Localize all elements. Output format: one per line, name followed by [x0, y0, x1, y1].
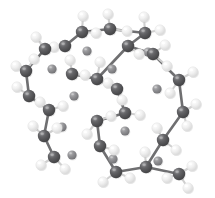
atom-sphere — [188, 67, 198, 77]
atom-sphere — [38, 130, 50, 142]
atom-sphere — [191, 99, 201, 109]
atom-specular-highlight — [93, 117, 97, 120]
atom-specular-highlight — [45, 106, 49, 109]
atom-sphere — [29, 54, 39, 64]
atom-specular-highlight — [142, 149, 145, 151]
atom-sphere — [117, 95, 127, 105]
atom-sphere — [23, 90, 35, 102]
atom-sphere — [43, 104, 55, 116]
atom-specular-highlight — [109, 66, 112, 68]
atom-sphere — [153, 156, 162, 165]
atom-specular-highlight — [69, 152, 72, 154]
atom-sphere — [177, 106, 189, 118]
atom-sphere — [125, 173, 135, 183]
atom-sphere — [20, 65, 32, 77]
atom-sphere — [110, 166, 122, 178]
atom-sphere — [59, 40, 71, 52]
atom-sphere — [11, 61, 21, 71]
atom-specular-highlight — [40, 132, 44, 135]
atom-sphere — [122, 40, 134, 52]
atom-sphere — [152, 84, 161, 93]
atom-specular-highlight — [164, 175, 167, 177]
atom-specular-highlight — [13, 63, 16, 65]
atom-sphere — [31, 32, 41, 42]
atom-sphere — [139, 27, 151, 39]
atom-specular-highlight — [25, 92, 29, 95]
atom-sphere — [187, 161, 197, 171]
atom-sphere — [140, 161, 152, 173]
atom-specular-highlight — [84, 48, 87, 50]
atom-specular-highlight — [67, 57, 70, 59]
atom-specular-highlight — [175, 76, 179, 79]
atom-sphere — [104, 23, 116, 35]
atom-sphere — [122, 26, 132, 36]
atom-sphere — [60, 164, 70, 174]
atom-sphere — [36, 160, 46, 170]
atom-specular-highlight — [154, 125, 157, 127]
atom-sphere — [91, 115, 103, 127]
atom-specular-highlight — [60, 103, 63, 105]
atom-specular-highlight — [106, 25, 110, 28]
atom-specular-highlight — [78, 28, 82, 31]
atom-sphere — [52, 123, 62, 133]
atom-specular-highlight — [108, 113, 111, 115]
atom-specular-highlight — [175, 170, 179, 173]
atom-sphere — [39, 43, 51, 55]
atom-specular-highlight — [162, 42, 165, 44]
atom-specular-highlight — [93, 30, 96, 32]
atom-specular-highlight — [22, 67, 26, 70]
atom-specular-highlight — [112, 168, 116, 171]
atom-specular-highlight — [31, 56, 34, 58]
atom-sphere — [106, 111, 116, 121]
atom-specular-highlight — [173, 147, 176, 149]
atom-sphere — [69, 91, 78, 100]
atom-sphere — [107, 64, 116, 73]
atom-specular-highlight — [82, 72, 85, 74]
atom-sphere — [155, 25, 165, 35]
atom-specular-highlight — [61, 42, 65, 45]
atom-sphere — [157, 134, 169, 146]
atom-sphere — [160, 40, 170, 50]
atom-specular-highlight — [113, 85, 117, 88]
atom-sphere — [162, 61, 172, 71]
atom-specular-highlight — [51, 44, 54, 46]
atom-specular-highlight — [184, 123, 187, 125]
atom-sphere — [91, 73, 103, 85]
atom-specular-highlight — [193, 101, 196, 103]
atom-specular-highlight — [71, 93, 74, 95]
atom-specular-highlight — [185, 185, 188, 187]
atom-specular-highlight — [54, 125, 57, 127]
atom-sphere — [76, 26, 88, 38]
atom-sphere — [152, 123, 162, 133]
atom-specular-highlight — [93, 75, 97, 78]
atom-specular-highlight — [167, 90, 170, 92]
atom-specular-highlight — [137, 112, 140, 114]
atom-specular-highlight — [119, 97, 122, 99]
atom-specular-highlight — [189, 163, 192, 165]
atom-sphere — [109, 145, 119, 155]
atom-sphere — [135, 110, 145, 120]
atom-specular-highlight — [33, 34, 36, 36]
atom-sphere — [98, 177, 108, 187]
atom-sphere — [12, 82, 22, 92]
atom-sphere — [173, 74, 185, 86]
atom-sphere — [140, 147, 150, 157]
atom-specular-highlight — [111, 147, 114, 149]
atom-sphere — [147, 48, 159, 60]
atom-sphere — [183, 183, 193, 193]
atom-sphere — [119, 107, 131, 119]
atom-sphere — [165, 88, 175, 98]
atom-sphere — [78, 11, 88, 21]
atom-sphere — [35, 97, 45, 107]
atom-specular-highlight — [96, 142, 100, 145]
atom-specular-highlight — [37, 99, 40, 101]
atom-sphere — [65, 55, 75, 65]
atom-sphere — [48, 151, 60, 163]
atom-specular-highlight — [97, 59, 100, 61]
atom-specular-highlight — [122, 128, 125, 130]
atom-sphere — [82, 46, 91, 55]
atom-specular-highlight — [50, 153, 54, 156]
atom-specular-highlight — [124, 28, 127, 30]
atom-specular-highlight — [105, 11, 108, 13]
atom-specular-highlight — [100, 179, 103, 181]
